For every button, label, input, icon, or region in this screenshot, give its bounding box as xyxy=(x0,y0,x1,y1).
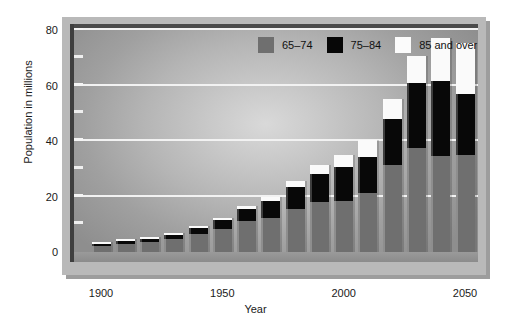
panel-left-bevel xyxy=(70,24,74,262)
bar-highlight-edge xyxy=(286,181,288,252)
legend-label: 85 and over xyxy=(419,39,477,51)
bar-shadow-edge xyxy=(280,197,282,252)
bar-highlight-edge xyxy=(334,155,336,252)
chart-legend: 65–7475–8485 and over xyxy=(258,36,491,54)
bar-shadow-edge xyxy=(475,43,477,252)
bar-segment-65-74 xyxy=(213,229,232,252)
y-tick-label: 40 xyxy=(46,135,58,147)
bar-2050 xyxy=(456,43,475,252)
bar-segment-75-84 xyxy=(261,201,280,218)
panel-top-bevel xyxy=(70,24,478,28)
x-tick-label: 1900 xyxy=(89,287,113,299)
series-b-swatch xyxy=(327,37,343,53)
bar-segment-85-and-over xyxy=(407,56,426,83)
bar-segment-75-84 xyxy=(334,167,353,201)
bar-highlight-edge xyxy=(383,99,385,252)
bar-shadow-edge xyxy=(256,206,258,252)
y-tick-label: 20 xyxy=(46,191,58,203)
bar-1910 xyxy=(116,239,135,252)
bar-highlight-edge xyxy=(189,226,191,252)
bar-highlight-edge xyxy=(164,233,166,252)
bar-1900 xyxy=(92,242,111,252)
bar-segment-65-74 xyxy=(407,148,426,252)
bar-highlight-edge xyxy=(456,43,458,252)
bar-segment-65-74 xyxy=(164,239,183,252)
legend-item-2: 85 and over xyxy=(395,37,477,53)
bar-shadow-edge xyxy=(111,242,113,252)
bar-1930 xyxy=(164,233,183,252)
bar-segment-75-84 xyxy=(383,119,402,165)
legend-label: 65–74 xyxy=(282,39,313,51)
bar-highlight-edge xyxy=(407,56,409,252)
bar-highlight-edge xyxy=(213,218,215,252)
legend-label: 75–84 xyxy=(351,39,382,51)
bar-2040 xyxy=(431,38,450,252)
series-a-swatch xyxy=(258,37,274,53)
x-tick-label: 2050 xyxy=(453,287,477,299)
bar-segment-85-and-over xyxy=(383,99,402,119)
plot-floor xyxy=(70,252,478,262)
bar-shadow-edge xyxy=(353,155,355,252)
bar-segment-75-84 xyxy=(456,94,475,155)
bar-segment-65-74 xyxy=(286,209,305,252)
bar-shadow-edge xyxy=(402,99,404,252)
bar-2010 xyxy=(358,140,377,252)
bar-1940 xyxy=(189,226,208,252)
bar-1980 xyxy=(286,181,305,252)
bar-segment-85-and-over xyxy=(310,165,329,174)
bar-shadow-edge xyxy=(159,237,161,252)
bar-shadow-edge xyxy=(377,140,379,252)
y-tick-label: 60 xyxy=(46,80,58,92)
bar-shadow-edge xyxy=(426,56,428,252)
bar-segment-75-84 xyxy=(407,83,426,148)
bar-2020 xyxy=(383,99,402,252)
legend-item-1: 75–84 xyxy=(327,37,382,53)
bar-shadow-edge xyxy=(305,181,307,252)
bar-shadow-edge xyxy=(208,226,210,252)
bar-segment-75-84 xyxy=(431,81,450,156)
bar-segment-65-74 xyxy=(431,156,450,252)
x-tick-label: 2000 xyxy=(331,287,355,299)
bar-highlight-edge xyxy=(237,206,239,252)
x-tick-label: 1950 xyxy=(210,287,234,299)
bar-segment-85-and-over xyxy=(358,140,377,157)
bar-shadow-edge xyxy=(183,233,185,252)
bar-segment-65-74 xyxy=(383,165,402,252)
chart-figure: 020406080 Population in millions 1900195… xyxy=(0,0,511,331)
bar-series-group xyxy=(70,24,478,262)
bar-segment-65-74 xyxy=(189,234,208,252)
bar-segment-85-and-over xyxy=(334,155,353,167)
x-axis-tick-labels: 1900195020002050 xyxy=(0,287,511,303)
plot-area xyxy=(70,24,478,262)
legend-item-0: 65–74 xyxy=(258,37,313,53)
bar-segment-65-74 xyxy=(334,201,353,252)
bar-segment-65-74 xyxy=(261,218,280,252)
bar-shadow-edge xyxy=(135,239,137,252)
x-axis-title: Year xyxy=(0,303,511,315)
bar-shadow-edge xyxy=(232,218,234,252)
bar-1920 xyxy=(140,237,159,252)
bar-shadow-edge xyxy=(450,38,452,252)
bar-2000 xyxy=(334,155,353,252)
bar-highlight-edge xyxy=(140,237,142,252)
bar-2030 xyxy=(407,56,426,252)
bar-segment-75-84 xyxy=(237,209,256,222)
bar-segment-65-74 xyxy=(237,221,256,252)
y-tick-label: 80 xyxy=(46,24,58,36)
bar-1950 xyxy=(213,218,232,252)
bar-highlight-edge xyxy=(261,197,263,252)
bar-segment-75-84 xyxy=(286,187,305,208)
bar-highlight-edge xyxy=(92,242,94,252)
bar-1970 xyxy=(261,197,280,252)
bar-segment-75-84 xyxy=(213,220,232,229)
bar-highlight-edge xyxy=(358,140,360,252)
bar-highlight-edge xyxy=(116,239,118,252)
bar-segment-65-74 xyxy=(116,244,135,252)
bar-segment-65-74 xyxy=(310,202,329,252)
bar-highlight-edge xyxy=(431,38,433,252)
bar-shadow-edge xyxy=(329,165,331,252)
series-c-swatch xyxy=(395,37,411,53)
bar-segment-65-74 xyxy=(358,193,377,252)
bar-segment-75-84 xyxy=(358,157,377,193)
bar-segment-65-74 xyxy=(456,155,475,252)
